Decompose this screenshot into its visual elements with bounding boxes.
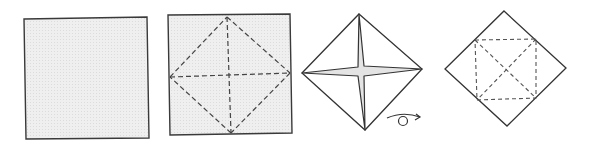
turn-over-icon bbox=[387, 114, 420, 126]
origami-diagram bbox=[0, 0, 590, 165]
step-1-blank-square bbox=[24, 17, 149, 139]
paper-square bbox=[24, 17, 149, 139]
step-3-collapsed-base bbox=[302, 14, 422, 130]
step-4-diamond-with-creases bbox=[445, 11, 566, 126]
step-2-creased-square bbox=[168, 14, 292, 135]
diamond-outline bbox=[445, 11, 566, 126]
